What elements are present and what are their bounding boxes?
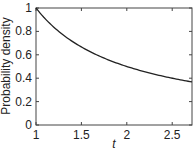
axis-tick-labels: 11.522.500.20.40.60.81	[15, 1, 181, 142]
x-tick-label: 1	[33, 128, 40, 142]
y-axis-label: Probability density	[0, 17, 13, 114]
x-tick-label: 1.5	[73, 128, 90, 142]
y-tick-label: 0.2	[15, 95, 32, 109]
plot-frame	[36, 8, 192, 125]
chart: 11.522.500.20.40.60.81 t Probability den…	[0, 0, 195, 152]
y-tick-label: 0.6	[15, 48, 32, 62]
axis-ticks	[36, 8, 192, 125]
x-axis-label: t	[112, 137, 116, 151]
axes-box	[36, 8, 192, 125]
y-tick-label: 0.4	[15, 71, 32, 85]
y-tick-label: 0	[25, 118, 32, 132]
y-tick-label: 1	[25, 1, 32, 15]
density-curve	[36, 8, 192, 82]
y-tick-label: 0.8	[15, 24, 32, 38]
x-tick-label: 2.5	[164, 128, 181, 142]
x-tick-label: 2	[123, 128, 130, 142]
